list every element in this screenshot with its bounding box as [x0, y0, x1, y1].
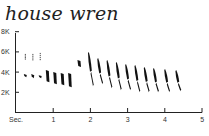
spectrogram-chart: 2K4K6K8K 12345 Sec. [0, 0, 209, 136]
syllable [31, 74, 34, 78]
x-ticks: 12345 [51, 108, 204, 123]
x-axis-label: Sec. [9, 116, 23, 123]
y-tick-label: 4K [1, 69, 10, 76]
y-tick-label: 6K [1, 48, 10, 55]
syllable [24, 74, 27, 77]
syllable [39, 75, 42, 78]
syllable [135, 65, 141, 92]
syllable [164, 69, 170, 92]
syllable [153, 68, 159, 92]
x-tick-label: 2 [89, 116, 93, 123]
syllable [40, 53, 41, 60]
x-tick-label: 5 [200, 116, 204, 123]
x-tick-label: 4 [163, 116, 167, 123]
syllable [116, 62, 122, 90]
syllable [25, 54, 26, 60]
syllable [68, 73, 72, 87]
y-tick-label: 8K [1, 28, 10, 35]
syllable [61, 73, 65, 85]
syllable [32, 54, 33, 61]
y-tick-label: 2K [1, 89, 10, 96]
y-ticks: 2K4K6K8K [1, 28, 19, 96]
syllable [77, 60, 81, 67]
syllable [175, 70, 181, 91]
syllable-marks [24, 52, 181, 92]
syllable [53, 72, 57, 84]
syllable [144, 67, 150, 92]
syllable [97, 58, 103, 84]
syllable [107, 60, 113, 88]
syllable [46, 70, 50, 82]
x-tick-label: 1 [51, 116, 55, 123]
x-tick-label: 3 [126, 116, 130, 123]
syllable [88, 52, 94, 86]
syllable [125, 64, 131, 90]
